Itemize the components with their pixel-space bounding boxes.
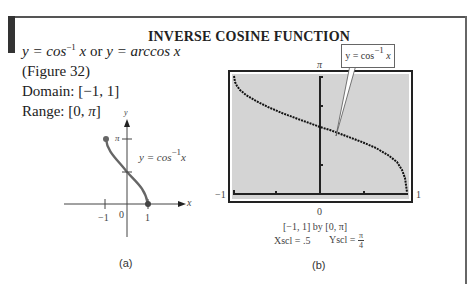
yscl-fraction: π4 <box>358 231 364 250</box>
callout-var: x <box>384 50 391 61</box>
fig-b-bottom-label: 0 <box>317 206 322 217</box>
yscl-denominator: 4 <box>358 241 364 250</box>
callout-prefix: y = cos <box>345 50 374 61</box>
fig-b-right-label: 1 <box>416 189 421 200</box>
fig-b-caption: (b) <box>312 259 325 271</box>
fig-b-yscl-text: Yscl = π4 <box>329 231 364 250</box>
yscl-numerator: π <box>358 231 364 241</box>
fig-b-xscl-text: Xscl = .5 <box>274 235 310 246</box>
fig-b-top-label: π <box>317 59 322 70</box>
fig-b-left-label: −1 <box>215 189 226 200</box>
callout-sup: −1 <box>374 45 384 55</box>
figure-b-calculator-screen <box>0 0 468 284</box>
curve-callout-box: y = cos−1 x <box>341 44 395 68</box>
yscl-prefix: Yscl = <box>329 234 358 245</box>
